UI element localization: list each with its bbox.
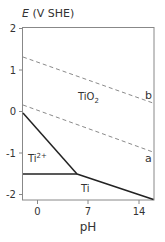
region-label-ti2plus: Ti2+ (27, 152, 47, 164)
x-tick-label-0: 0 (34, 206, 40, 217)
pourbaix-diagram: E (V SHE) 2 1 0 -1 -2 0 7 14 pH Ti (0, 0, 165, 242)
boundary-ti2-tio2 (23, 113, 77, 174)
y-tick-label-1: 1 (10, 65, 16, 76)
line-label-b: b (145, 89, 152, 102)
y-tick-label-minus-2: -2 (6, 189, 16, 200)
y-tick-label-0: 0 (10, 106, 16, 117)
y-tick-label-minus-1: -1 (6, 148, 16, 159)
x-axis-title: pH (80, 220, 97, 234)
region-label-tio2: TiO2 (77, 91, 99, 105)
line-a-hydrogen (23, 105, 153, 152)
line-label-a: a (145, 152, 152, 165)
y-axis-tick-labels: 2 1 0 -1 -2 (6, 23, 16, 200)
x-axis-tick-labels: 0 7 14 (34, 206, 145, 217)
x-tick-label-14: 14 (133, 206, 146, 217)
y-axis-ticks (19, 29, 23, 195)
y-tick-label-2: 2 (10, 23, 16, 34)
y-axis-title: E (V SHE) (22, 7, 74, 20)
y-axis-title-e: E (22, 7, 29, 20)
x-axis-ticks (38, 200, 140, 204)
x-tick-label-7: 7 (85, 206, 91, 217)
region-label-ti: Ti (80, 183, 90, 194)
y-axis-title-units: (V SHE) (29, 7, 74, 20)
